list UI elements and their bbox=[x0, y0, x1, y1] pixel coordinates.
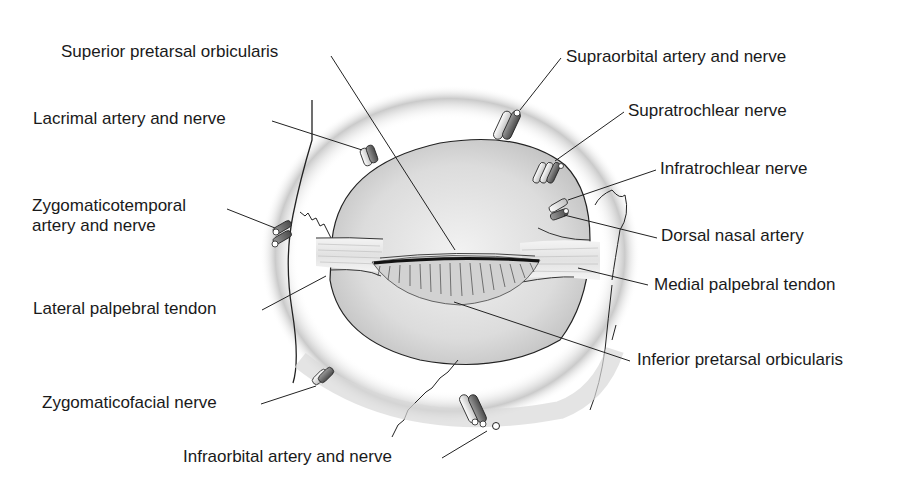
label-inferior-pretarsal-orbicularis: Inferior pretarsal orbicularis bbox=[637, 350, 843, 370]
label-infraorbital-artery-and-nerve: Infraorbital artery and nerve bbox=[183, 447, 392, 467]
anatomy-illustration bbox=[0, 0, 908, 493]
orbital-anatomy-diagram: Superior pretarsal orbicularis Lacrimal … bbox=[0, 0, 908, 493]
label-infratrochlear-nerve: Infratrochlear nerve bbox=[660, 159, 807, 179]
leader-infraorbital bbox=[442, 431, 487, 458]
label-lateral-palpebral-tendon: Lateral palpebral tendon bbox=[33, 299, 216, 319]
label-supraorbital-artery-and-nerve: Supraorbital artery and nerve bbox=[566, 47, 786, 67]
lateral-palpebral-tendon-band bbox=[316, 238, 383, 272]
label-superior-pretarsal-orbicularis: Superior pretarsal orbicularis bbox=[61, 42, 278, 62]
label-zygomaticotemporal-line2: artery and nerve bbox=[32, 216, 156, 236]
label-dorsal-nasal-artery: Dorsal nasal artery bbox=[661, 226, 804, 246]
label-zygomaticofacial-nerve: Zygomaticofacial nerve bbox=[42, 393, 217, 413]
label-zygomaticotemporal-line1: Zygomaticotemporal bbox=[32, 196, 186, 216]
leader-zygomaticofacial bbox=[261, 386, 316, 404]
label-medial-palpebral-tendon: Medial palpebral tendon bbox=[654, 275, 835, 295]
label-supratrochlear-nerve: Supratrochlear nerve bbox=[628, 101, 787, 121]
label-lacrimal-artery-and-nerve: Lacrimal artery and nerve bbox=[33, 109, 226, 129]
leader-supraorbital bbox=[520, 58, 561, 110]
